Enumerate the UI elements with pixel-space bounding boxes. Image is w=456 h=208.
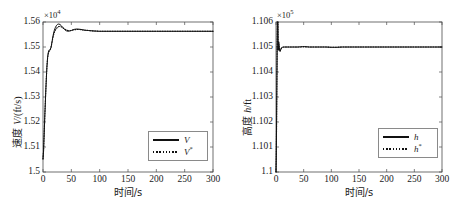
altitude-xtick-label: 300 <box>422 175 456 185</box>
solid-line-swatch-icon <box>152 135 180 145</box>
velocity-x-axis-label: 时间/s <box>78 188 178 198</box>
velocity-ytick-label: 1.52 <box>23 117 40 127</box>
velocity-y-axis-label: 速度 V/(ft/s) <box>13 96 23 148</box>
legend-item-h[interactable]: h <box>382 131 434 143</box>
altitude-ytick-label: 1.101 <box>252 142 273 152</box>
altitude-ytick-label: 1.102 <box>252 117 273 127</box>
altitude-legend[interactable]: h h* <box>378 128 438 158</box>
velocity-legend[interactable]: V V* <box>148 131 208 161</box>
altitude-y-exponent: ×105 <box>277 11 294 20</box>
velocity-ytick-label: 1.51 <box>23 142 40 152</box>
chart-panel-altitude: ×105 时间/s 高度 h/ft h h* 1.11.1011.1021.10… <box>228 0 456 208</box>
velocity-xtick-label: 300 <box>193 175 233 185</box>
legend-item-v[interactable]: V <box>152 134 204 146</box>
solid-line-swatch-icon <box>382 132 410 142</box>
chart-panel-velocity: ×104 时间/s 速度 V/(ft/s) V V* 1.51.511.521.… <box>0 0 228 208</box>
dotted-line-swatch-icon <box>152 147 180 157</box>
legend-item-v-ref[interactable]: V* <box>152 146 204 158</box>
altitude-x-axis-label: 时间/s <box>309 188 409 198</box>
altitude-ytick-label: 1.104 <box>252 67 273 77</box>
figure-container: ×104 时间/s 速度 V/(ft/s) V V* 1.51.511.521.… <box>0 0 456 208</box>
velocity-ytick-label: 1.54 <box>23 67 40 77</box>
legend-label-v: V <box>184 136 190 145</box>
velocity-ytick-label: 1.55 <box>23 42 40 52</box>
legend-item-h-ref[interactable]: h* <box>382 143 434 155</box>
altitude-ytick-label: 1.106 <box>252 17 273 27</box>
legend-label-v-ref: V* <box>184 148 193 157</box>
velocity-ytick-label: 1.56 <box>23 17 40 27</box>
altitude-ytick-label: 1.105 <box>252 42 273 52</box>
dotted-line-swatch-icon <box>382 144 410 154</box>
altitude-ytick-label: 1.103 <box>252 92 273 102</box>
legend-label-h-ref: h* <box>414 145 422 154</box>
velocity-ytick-label: 1.53 <box>23 92 40 102</box>
velocity-y-exponent: ×104 <box>44 11 61 20</box>
legend-label-h: h <box>414 133 419 142</box>
